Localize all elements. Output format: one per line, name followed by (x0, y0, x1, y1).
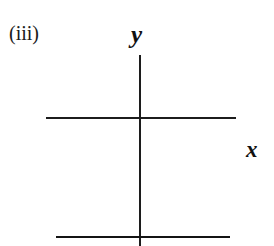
x-axis-label: x (246, 138, 258, 161)
lower-horizontal-line (56, 236, 230, 238)
y-axis-label: y (131, 22, 142, 47)
figure-canvas: (iii) y x (0, 0, 274, 246)
part-label: (iii) (9, 23, 39, 43)
y-axis-line (139, 55, 141, 246)
x-axis-line (46, 117, 236, 118)
